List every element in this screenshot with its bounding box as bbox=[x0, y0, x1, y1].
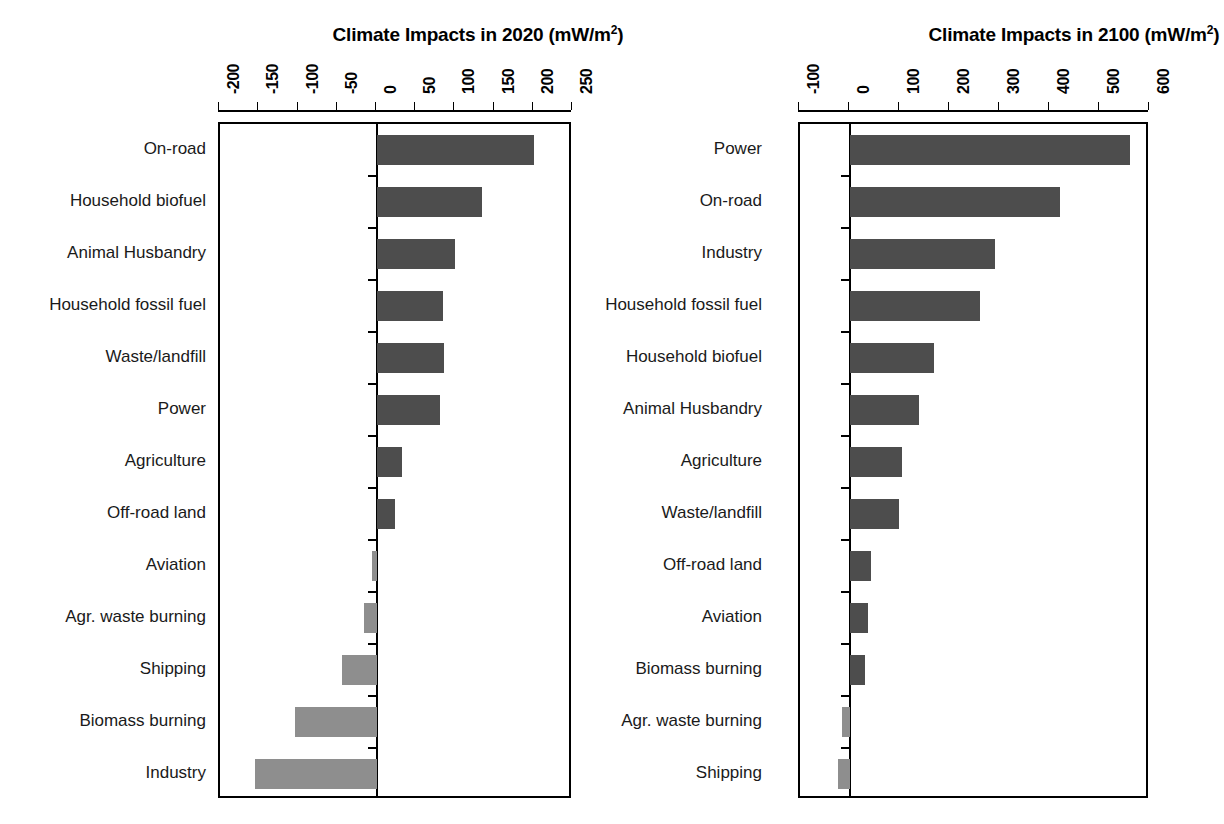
x-tick-label-2020-9: 250 bbox=[578, 69, 596, 94]
row-tick-2100-1 bbox=[841, 227, 849, 229]
x-tick-2100-3 bbox=[948, 102, 949, 110]
bar-2020-5 bbox=[377, 395, 440, 425]
bar-2100-2 bbox=[850, 239, 995, 269]
chart-panel-2100: Climate Impacts in 2100 (mW/m2) -1000100… bbox=[600, 0, 1176, 824]
row-tick-2100-11 bbox=[841, 747, 849, 749]
bar-2020-9 bbox=[364, 603, 377, 633]
category-label-2100-2: Industry bbox=[702, 244, 762, 261]
bar-2100-1 bbox=[850, 187, 1060, 217]
row-tick-2100-6 bbox=[841, 487, 849, 489]
category-label-2020-2: Animal Husbandry bbox=[67, 244, 206, 261]
row-tick-2100-0 bbox=[841, 175, 849, 177]
row-tick-2100-9 bbox=[841, 643, 849, 645]
x-tick-2100-0 bbox=[798, 102, 799, 110]
x-tick-2100-1 bbox=[848, 102, 849, 110]
bar-2020-7 bbox=[377, 499, 395, 529]
category-label-2020-12: Industry bbox=[146, 764, 206, 781]
bar-2100-8 bbox=[850, 551, 871, 581]
row-tick-2100-8 bbox=[841, 591, 849, 593]
row-tick-2020-0 bbox=[368, 175, 376, 177]
x-axis-line-2020 bbox=[218, 110, 571, 112]
chart-title-2100-main: Climate Impacts in 2100 (mW/m bbox=[929, 24, 1207, 45]
plot-frame-2100 bbox=[798, 122, 1148, 798]
x-tick-label-2100-7: 600 bbox=[1155, 69, 1173, 94]
category-label-2100-0: Power bbox=[714, 140, 762, 157]
bar-2100-9 bbox=[850, 603, 868, 633]
x-tick-2020-4 bbox=[375, 102, 376, 110]
x-tick-2020-6 bbox=[453, 102, 454, 110]
category-label-2100-3: Household fossil fuel bbox=[605, 296, 762, 313]
x-tick-2020-5 bbox=[414, 102, 415, 110]
x-tick-label-2020-4: 0 bbox=[382, 86, 400, 94]
category-label-2020-10: Shipping bbox=[140, 660, 206, 677]
x-tick-label-2020-8: 200 bbox=[539, 69, 557, 94]
bar-2020-8 bbox=[372, 551, 377, 581]
x-tick-2100-7 bbox=[1148, 102, 1149, 110]
x-tick-2020-7 bbox=[493, 102, 494, 110]
row-tick-2020-11 bbox=[368, 747, 376, 749]
row-tick-2020-1 bbox=[368, 227, 376, 229]
category-label-2020-11: Biomass burning bbox=[79, 712, 206, 729]
category-label-2100-7: Waste/landfill bbox=[662, 504, 762, 521]
x-tick-2020-1 bbox=[257, 102, 258, 110]
x-tick-2020-0 bbox=[218, 102, 219, 110]
row-tick-2100-10 bbox=[841, 695, 849, 697]
bar-2100-6 bbox=[850, 447, 902, 477]
category-label-2100-1: On-road bbox=[700, 192, 762, 209]
row-tick-2100-3 bbox=[841, 331, 849, 333]
bar-2020-1 bbox=[377, 187, 482, 217]
x-tick-2020-9 bbox=[571, 102, 572, 110]
bar-2020-6 bbox=[377, 447, 402, 477]
category-label-2100-11: Agr. waste burning bbox=[621, 712, 762, 729]
bar-2100-11 bbox=[842, 707, 850, 737]
x-tick-label-2020-2: -100 bbox=[304, 64, 322, 94]
row-tick-2020-7 bbox=[368, 539, 376, 541]
x-tick-label-2100-3: 200 bbox=[955, 69, 973, 94]
x-tick-label-2100-4: 300 bbox=[1005, 69, 1023, 94]
category-label-2020-1: Household biofuel bbox=[70, 192, 206, 209]
row-tick-2020-5 bbox=[368, 435, 376, 437]
category-label-2100-5: Animal Husbandry bbox=[623, 400, 762, 417]
bar-2020-12 bbox=[255, 759, 377, 789]
category-label-2100-10: Biomass burning bbox=[635, 660, 762, 677]
x-tick-2100-4 bbox=[998, 102, 999, 110]
row-tick-2100-5 bbox=[841, 435, 849, 437]
category-label-2020-6: Agriculture bbox=[125, 452, 206, 469]
bar-2020-0 bbox=[377, 135, 534, 165]
category-label-2020-5: Power bbox=[158, 400, 206, 417]
bar-2100-0 bbox=[850, 135, 1130, 165]
row-tick-2100-2 bbox=[841, 279, 849, 281]
x-tick-label-2100-5: 400 bbox=[1055, 69, 1073, 94]
row-tick-2100-4 bbox=[841, 383, 849, 385]
chart-title-2100-tail: ) bbox=[1213, 24, 1219, 45]
bar-2020-3 bbox=[377, 291, 443, 321]
bar-2100-7 bbox=[850, 499, 899, 529]
category-label-2100-8: Off-road land bbox=[663, 556, 762, 573]
x-tick-2020-8 bbox=[532, 102, 533, 110]
bar-2100-12 bbox=[838, 759, 850, 789]
bar-2100-3 bbox=[850, 291, 980, 321]
x-tick-label-2100-1: 0 bbox=[855, 86, 873, 94]
x-tick-label-2020-1: -150 bbox=[264, 64, 282, 94]
x-tick-label-2020-0: -200 bbox=[225, 64, 243, 94]
bar-2100-5 bbox=[850, 395, 919, 425]
chart-panel-2020: Climate Impacts in 2020 (mW/m2) -200-150… bbox=[0, 0, 600, 824]
bar-2020-10 bbox=[342, 655, 377, 685]
row-tick-2020-2 bbox=[368, 279, 376, 281]
bar-2100-4 bbox=[850, 343, 934, 373]
x-tick-label-2100-6: 500 bbox=[1105, 69, 1123, 94]
x-tick-label-2020-3: -50 bbox=[343, 72, 361, 94]
x-tick-2020-3 bbox=[336, 102, 337, 110]
row-tick-2020-8 bbox=[368, 591, 376, 593]
category-label-2020-9: Agr. waste burning bbox=[65, 608, 206, 625]
x-tick-label-2020-5: 50 bbox=[421, 77, 439, 94]
bar-2100-10 bbox=[850, 655, 865, 685]
category-label-2100-6: Agriculture bbox=[681, 452, 762, 469]
category-label-2100-4: Household biofuel bbox=[626, 348, 762, 365]
category-label-2020-8: Aviation bbox=[146, 556, 206, 573]
row-tick-2100-7 bbox=[841, 539, 849, 541]
chart-title-2020-main: Climate Impacts in 2020 (mW/m bbox=[333, 24, 611, 45]
chart-title-2100: Climate Impacts in 2100 (mW/m2) bbox=[600, 24, 1224, 46]
x-tick-label-2020-7: 150 bbox=[500, 69, 518, 94]
